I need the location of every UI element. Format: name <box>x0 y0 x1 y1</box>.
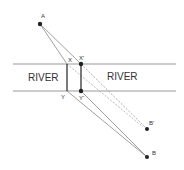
label-y-prime: Y' <box>79 95 84 101</box>
line-a-to-x <box>40 24 67 64</box>
river-crossing-diagram: A X X' Y Y' B' B RIVER RIVER <box>0 0 184 170</box>
point-x-prime <box>79 62 83 66</box>
label-x: X <box>68 57 72 63</box>
point-b-prime <box>145 127 149 131</box>
point-a <box>38 22 42 26</box>
river-label-left: RIVER <box>28 72 59 83</box>
line-a-to-x-prime <box>40 24 81 64</box>
river-label-right: RIVER <box>107 71 138 82</box>
label-b-prime: B' <box>149 120 154 126</box>
label-b: B <box>152 150 156 156</box>
label-x-prime: X' <box>79 55 84 61</box>
point-b <box>145 155 149 159</box>
label-a: A <box>41 13 45 19</box>
label-y: Y <box>61 94 65 100</box>
point-y-prime <box>79 89 83 93</box>
line-y-prime-to-b <box>81 91 147 157</box>
